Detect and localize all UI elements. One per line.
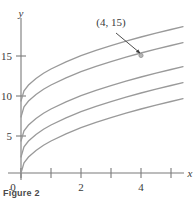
chart-plot: 0 2 4 5 10 15 y x (4, 15) [0,0,196,202]
x-tick-label-2: 2 [78,181,84,193]
x-axis-label: x [187,167,193,179]
axes-group [8,18,184,180]
annotation-label: (4, 15) [96,16,126,29]
figure-container: 0 2 4 5 10 15 y x (4, 15) Fig [0,0,196,202]
y-tick-label-15: 15 [1,50,13,62]
y-tick-label-10: 10 [1,90,13,102]
figure-caption: Figure 2 [3,188,40,198]
annotation-point-marker [139,53,143,57]
curve-c0 [21,99,183,173]
y-tick-label-5: 5 [7,130,13,142]
curve-c7 [21,43,183,117]
x-tick-label-4: 4 [138,181,144,193]
annotation-group: (4, 15) [96,16,143,58]
curve-family [21,27,183,173]
y-axis-label: y [18,7,24,19]
